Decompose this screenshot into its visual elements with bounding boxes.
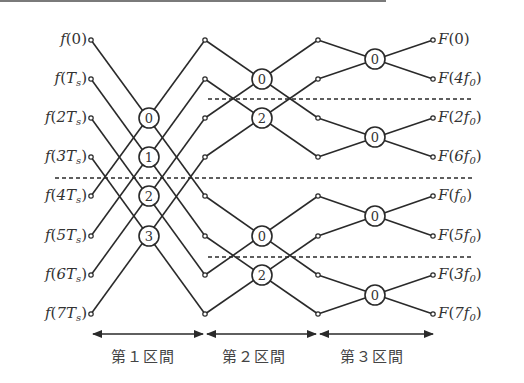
stage-3-label: 第３区間: [340, 345, 404, 366]
twiddle-node: 0: [252, 69, 272, 89]
input-label: f(4Ts): [45, 186, 87, 209]
input-label: f(2Ts): [45, 108, 87, 131]
twiddle-node: 2: [252, 265, 272, 285]
output-label: F(f0): [438, 186, 472, 209]
input-label: f(3Ts): [45, 147, 87, 170]
twiddle-node: 0: [365, 49, 385, 69]
output-label: F(2f0): [438, 108, 482, 131]
svg-text:0: 0: [258, 72, 266, 87]
twiddle-node: 1: [139, 147, 159, 167]
twiddle-node: 0: [365, 285, 385, 305]
svg-text:2: 2: [145, 189, 153, 204]
input-label: f(6Ts): [45, 265, 87, 288]
stage-2-label: 第２区間: [222, 345, 286, 366]
twiddle-node: 0: [252, 226, 272, 246]
svg-text:0: 0: [371, 52, 379, 67]
output-label: F(3f0): [438, 265, 482, 288]
svg-text:0: 0: [371, 209, 379, 224]
twiddle-node: 2: [252, 108, 272, 128]
svg-text:2: 2: [258, 111, 266, 126]
input-label: f(Ts): [55, 69, 87, 92]
output-label: F(5f0): [438, 226, 482, 249]
input-label: f(5Ts): [45, 226, 87, 249]
input-label: f(7Ts): [45, 304, 87, 327]
svg-text:0: 0: [371, 288, 379, 303]
input-label: f(0): [60, 30, 87, 48]
stage-3-nodes: 0 0 0 0: [365, 49, 385, 305]
twiddle-node: 0: [365, 127, 385, 147]
twiddle-node: 2: [139, 186, 159, 206]
svg-text:2: 2: [258, 268, 266, 283]
svg-text:0: 0: [145, 111, 153, 126]
twiddle-node: 0: [139, 108, 159, 128]
stage-3-edges: [318, 40, 433, 314]
output-label: F(4f0): [438, 69, 482, 92]
stage-1-edges: [91, 40, 205, 314]
output-label: F(0): [438, 30, 470, 48]
svg-text:0: 0: [371, 130, 379, 145]
twiddle-node: 0: [365, 206, 385, 226]
svg-text:0: 0: [258, 229, 266, 244]
svg-text:3: 3: [145, 229, 153, 244]
stage-1-label: 第１区間: [111, 345, 175, 366]
twiddle-node: 3: [139, 226, 159, 246]
output-label: F(7f0): [438, 304, 482, 327]
stage-2-nodes: 0 2 0 2: [252, 69, 272, 285]
svg-text:1: 1: [145, 150, 153, 165]
output-label: F(6f0): [438, 147, 482, 170]
